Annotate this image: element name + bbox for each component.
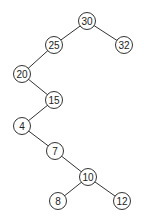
node-label: 4	[19, 121, 25, 132]
node-label: 32	[118, 40, 130, 51]
node-label: 30	[81, 16, 93, 27]
node-label: 20	[16, 69, 28, 80]
tree-node-8: 8	[50, 193, 67, 210]
node-label: 25	[48, 40, 60, 51]
tree-node-32: 32	[116, 37, 133, 54]
tree-node-10: 10	[80, 169, 97, 186]
tree-node-20: 20	[14, 66, 31, 83]
node-label: 12	[116, 196, 128, 207]
tree-node-4: 4	[14, 118, 31, 135]
tree-node-12: 12	[114, 193, 131, 210]
tree-node-15: 15	[46, 92, 63, 109]
nodes: 30253220154710812	[14, 13, 133, 210]
node-label: 8	[55, 196, 61, 207]
edges	[22, 21, 124, 201]
tree-node-30: 30	[79, 13, 96, 30]
node-label: 7	[52, 146, 58, 157]
tree-node-7: 7	[47, 143, 64, 160]
node-label: 15	[48, 95, 60, 106]
binary-tree-diagram: 30253220154710812	[0, 0, 144, 220]
tree-node-25: 25	[46, 37, 63, 54]
node-label: 10	[82, 172, 94, 183]
